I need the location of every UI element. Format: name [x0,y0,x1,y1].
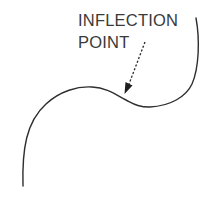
diagram-graphic [0,0,213,203]
arrow-head-icon [125,82,133,94]
label-inflection: INFLECTION [78,12,178,29]
label-point: POINT [78,34,129,51]
inflection-point-diagram: INFLECTION POINT [0,0,213,203]
arrow-shaft [129,42,145,84]
